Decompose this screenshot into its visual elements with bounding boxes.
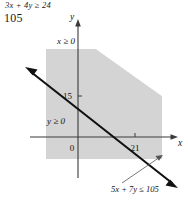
figure-root: 3x + 4y ≥ 24 105 y x 0 21 15 x ≥ 0 y ≥ 0… — [0, 0, 188, 200]
annotation-y-nonneg: y ≥ 0 — [46, 116, 65, 126]
y-axis-arrowhead — [75, 19, 81, 27]
boundary-line-arrowhead-right — [166, 180, 179, 189]
boundary-line-arrowhead-left — [25, 67, 38, 76]
boundary-line-callout-label: 5x + 7y ≤ 105 — [111, 184, 159, 194]
y-axis-label: y — [69, 12, 75, 22]
x-axis-label: x — [177, 138, 183, 148]
annotation-x-nonneg: x ≥ 0 — [56, 36, 75, 46]
coordinate-plot: y x 0 21 15 x ≥ 0 y ≥ 0 5x + 7y ≤ 105 — [0, 0, 188, 200]
x-tick-label-21: 21 — [131, 143, 140, 153]
y-tick-label-15: 15 — [63, 91, 73, 101]
origin-label: 0 — [70, 143, 75, 153]
x-axis-arrowhead — [171, 134, 179, 140]
